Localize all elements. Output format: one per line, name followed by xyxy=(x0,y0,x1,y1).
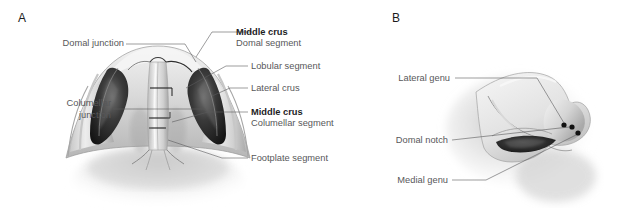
panel-letter-b: B xyxy=(392,11,400,25)
label-columellar-segment: Columellar segment xyxy=(251,118,334,129)
lip-highlight xyxy=(88,148,228,188)
label-middle-crus-lower: Middle crus xyxy=(251,107,303,118)
panel-b-artwork xyxy=(446,73,596,202)
label-columellar-junction-line2: junction xyxy=(0,110,111,121)
label-footplate-segment: Footplate segment xyxy=(251,153,328,164)
columella xyxy=(148,62,169,150)
label-domal-junction: Domal junction xyxy=(0,38,124,49)
vestibule-shadow-left xyxy=(130,108,150,152)
panel-letter-a: A xyxy=(18,11,26,25)
label-domal-notch: Domal notch xyxy=(330,135,448,146)
vestibule-shadow-right xyxy=(166,108,186,152)
label-columellar-junction-line1: Columellar xyxy=(0,98,111,109)
medial-genu-dot xyxy=(575,130,580,135)
label-domal-segment: Domal segment xyxy=(236,38,301,49)
figure-container: A B Domal junction Columellar junction M… xyxy=(0,0,620,211)
label-lateral-crus: Lateral crus xyxy=(251,83,300,94)
panel-a-artwork xyxy=(66,32,252,211)
domal-notch-dot xyxy=(569,124,574,129)
label-middle-crus-top: Middle crus xyxy=(236,27,288,38)
label-lateral-genu: Lateral genu xyxy=(330,73,450,84)
label-medial-genu: Medial genu xyxy=(330,175,448,186)
lateral-genu-dot xyxy=(561,122,566,127)
label-lobular-segment: Lobular segment xyxy=(251,61,320,72)
